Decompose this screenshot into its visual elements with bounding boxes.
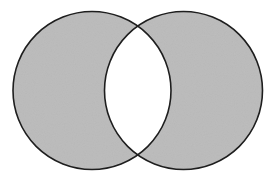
venn-diagram: symmetric difference (A △ B) [0,0,275,181]
venn-diagram-svg [0,0,275,181]
